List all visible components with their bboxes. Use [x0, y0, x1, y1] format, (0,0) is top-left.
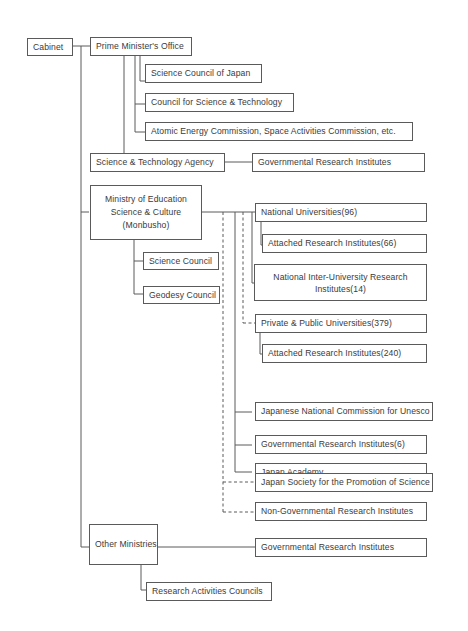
node-monbusho: Ministry of Education Science & Culture …: [90, 185, 202, 240]
node-sta-governmental-research-institutes: Governmental Research Institutes: [252, 153, 425, 172]
node-label: Other Ministries: [95, 539, 157, 550]
node-attached-research-institutes-240: Attached Research Institutes(240): [262, 344, 427, 363]
node-science-technology-agency: Science & Technology Agency: [90, 153, 225, 172]
node-attached-research-institutes-66: Attached Research Institutes(66): [262, 234, 427, 253]
node-label: National Universities(96): [261, 207, 357, 218]
node-label: Governmental Research Institutes: [258, 157, 391, 168]
node-label: Governmental Research Institutes(6): [261, 439, 405, 450]
node-private-public-universities: Private & Public Universities(379): [255, 314, 427, 333]
node-jsps: Japan Society for the Promotion of Scien…: [255, 473, 433, 492]
node-label: Geodesy Council: [149, 290, 216, 301]
node-national-inter-university-research-institutes: National Inter-University Research Insti…: [254, 264, 427, 301]
node-label: Science Council: [149, 256, 212, 267]
node-unesco-commission: Japanese National Commission for Unesco: [255, 402, 433, 421]
node-label: Attached Research Institutes(66): [268, 238, 396, 249]
node-label: Attached Research Institutes(240): [268, 348, 401, 359]
node-national-universities: National Universities(96): [255, 203, 427, 222]
node-label-line1: National Inter-University Research: [273, 271, 407, 283]
node-research-activities-councils: Research Activities Councils: [146, 582, 272, 601]
node-label-line3: (Monbusho): [123, 219, 170, 232]
node-label: Japanese National Commission for Unesco: [261, 406, 430, 417]
node-label-line1: Ministry of Education: [105, 193, 187, 206]
node-label: Prime Minister's Office: [96, 41, 184, 52]
node-label: Science Council of Japan: [151, 68, 250, 79]
node-monbusho-governmental-research-institutes: Governmental Research Institutes(6): [255, 435, 427, 454]
node-atomic-energy-commission: Atomic Energy Commission, Space Activiti…: [145, 122, 413, 141]
node-non-governmental-research-institutes: Non-Governmental Research Institutes: [255, 502, 427, 521]
node-prime-ministers-office: Prime Minister's Office: [90, 37, 192, 56]
node-label: Council for Science & Technology: [151, 97, 282, 108]
node-other-ministries: Other Ministries: [89, 524, 158, 565]
node-other-governmental-research-institutes: Governmental Research Institutes: [255, 538, 427, 557]
node-geodesy-council: Geodesy Council: [143, 286, 220, 304]
node-label: Private & Public Universities(379): [261, 318, 392, 329]
node-label: Non-Governmental Research Institutes: [261, 506, 413, 517]
node-cabinet: Cabinet: [27, 38, 73, 56]
science-administration-diagram: Cabinet Prime Minister's Office Science …: [0, 0, 468, 631]
node-label: Research Activities Councils: [152, 586, 263, 597]
node-label-line2: Institutes(14): [315, 283, 366, 295]
node-label: Japan Society for the Promotion of Scien…: [261, 477, 430, 488]
node-label: Atomic Energy Commission, Space Activiti…: [151, 126, 396, 137]
node-label-line2: Science & Culture: [111, 206, 181, 219]
node-label: Cabinet: [33, 42, 63, 53]
node-label: Science & Technology Agency: [96, 157, 214, 168]
node-science-council: Science Council: [143, 252, 219, 270]
node-label: Governmental Research Institutes: [261, 542, 394, 553]
node-council-for-science-technology: Council for Science & Technology: [145, 93, 294, 112]
node-science-council-of-japan: Science Council of Japan: [145, 64, 262, 83]
